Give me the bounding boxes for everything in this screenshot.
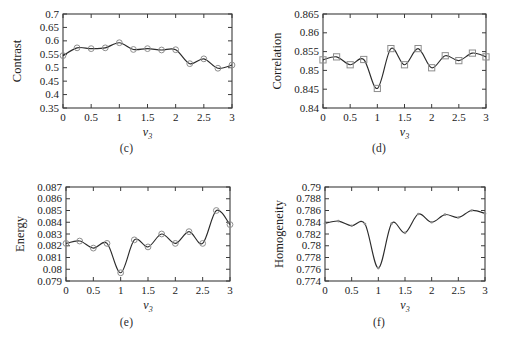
y-tick-label: 0.86 [300,26,320,38]
y-tick-label: 0.78 [302,239,322,251]
y-tick-label: 0.79 [302,181,322,193]
data-point-marker [350,224,353,227]
data-point-marker [364,223,367,226]
x-tick-label: 1 [375,111,381,123]
y-axis-title: Energy [13,215,27,252]
data-point-marker [430,221,433,224]
x-tick-label: 2.5 [197,111,211,123]
y-tick-label: 0.84 [300,102,320,114]
x-axis-title: v3 [400,125,409,141]
x-tick-label: 3 [483,111,489,123]
y-tick-label: 0.08 [43,263,63,275]
x-tick-label: 1.5 [141,284,155,296]
x-axis-title-subscript: 3 [405,305,410,314]
data-point-marker [404,232,407,235]
y-tick-label: 0.4 [45,88,59,100]
x-tick-label: 2.5 [451,284,465,296]
y-tick-label: 0.55 [40,48,60,60]
panel-e: 00.511.522.530.0790.080.0810.0820.0830.0… [0,175,253,346]
data-point-marker [470,209,473,212]
panel-caption-c: (c) [0,142,253,154]
x-tick-label: 0.5 [86,284,100,296]
y-tick-label: 0.45 [40,75,60,87]
y-tick-label: 0.782 [296,228,321,240]
x-tick-label: 1 [118,284,124,296]
x-tick-label: 0.5 [343,111,357,123]
x-tick-label: 1 [117,111,123,123]
y-tick-label: 0.774 [296,275,321,287]
x-tick-label: 1 [376,284,382,296]
y-tick-label: 0.086 [37,192,62,204]
y-tick-label: 0.6 [45,34,59,46]
x-tick-label: 2 [173,284,179,296]
x-tick-label: 2 [173,111,179,123]
y-tick-label: 0.079 [37,275,62,287]
x-axis-title-subscript: 3 [404,132,409,141]
x-axis-title-subscript: 3 [148,305,153,314]
data-point-marker [417,213,420,216]
x-axis-title: v3 [143,298,152,314]
data-point-marker [444,213,447,216]
panel-caption-e: (e) [0,316,253,328]
data-point-marker [337,220,340,223]
data-point-marker [324,222,327,225]
y-tick-label: 0.084 [37,216,62,228]
data-point-marker [390,222,393,225]
x-axis-title: v3 [400,298,409,314]
x-tick-label: 3 [227,284,233,296]
y-tick-label: 0.784 [296,216,321,228]
panel-caption-d: (d) [253,142,505,154]
y-tick-label: 0.087 [37,181,62,193]
x-tick-label: 0 [322,284,328,296]
y-tick-label: 0.845 [294,83,319,95]
panel-f: 00.511.522.530.7740.7760.7780.780.7820.7… [253,175,505,346]
x-tick-label: 0.5 [345,284,359,296]
x-tick-label: 0 [320,111,326,123]
x-tick-label: 1.5 [398,284,412,296]
data-point-marker [377,267,380,270]
y-tick-label: 0.083 [37,228,62,240]
x-axis-title: v3 [143,125,152,141]
data-point-marker [457,216,460,219]
data-point-marker [484,212,487,215]
y-tick-label: 0.786 [296,204,321,216]
y-axis-title: Homogeneity [272,199,286,268]
y-tick-label: 0.65 [40,21,60,33]
y-tick-label: 0.776 [296,263,321,275]
y-tick-label: 0.788 [296,192,321,204]
x-axis-title-subscript: 3 [147,132,152,141]
y-axis-title: Correlation [270,32,284,90]
x-tick-label: 3 [482,284,488,296]
y-tick-label: 0.082 [37,239,62,251]
x-tick-label: 2.5 [196,284,210,296]
y-tick-label: 0.85 [300,64,320,76]
y-tick-label: 0.865 [294,8,319,20]
panel-d: 00.511.522.530.840.8450.850.8550.860.865… [253,0,505,175]
panel-c: 00.511.522.530.350.40.450.50.550.60.650.… [0,0,253,175]
y-tick-label: 0.081 [37,251,62,263]
x-tick-label: 0.5 [84,111,98,123]
x-tick-label: 2.5 [452,111,466,123]
x-tick-label: 1.5 [398,111,412,123]
y-tick-label: 0.778 [296,251,321,263]
y-axis-title: Contrast [10,39,24,82]
y-tick-label: 0.855 [294,45,319,57]
figure-panel-grid: 00.511.522.530.350.40.450.50.550.60.650.… [0,0,505,346]
x-tick-label: 0 [60,111,66,123]
y-tick-label: 0.7 [45,8,59,20]
panel-caption-f: (f) [253,316,505,328]
y-tick-label: 0.5 [45,61,59,73]
x-tick-label: 2 [429,111,435,123]
x-tick-label: 1.5 [141,111,155,123]
y-tick-label: 0.085 [37,204,62,216]
x-tick-label: 3 [229,111,235,123]
x-tick-label: 0 [63,284,69,296]
y-tick-label: 0.35 [40,102,60,114]
x-tick-label: 2 [429,284,435,296]
